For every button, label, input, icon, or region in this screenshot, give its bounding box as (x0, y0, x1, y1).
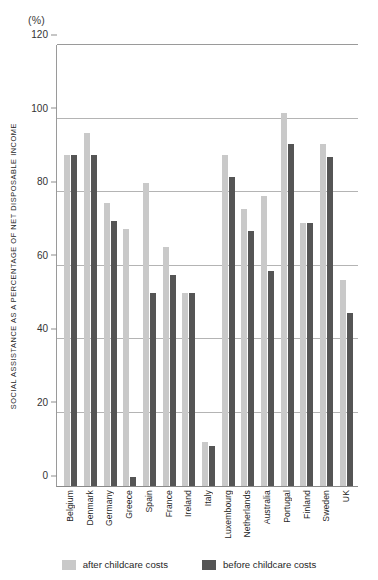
x-axis-label-france: France (159, 490, 179, 552)
bar-group-ireland (179, 45, 199, 486)
x-axis-label-text: Ireland (183, 490, 193, 517)
x-axis-label-text: Luxembourg (223, 490, 233, 539)
x-axis-label-belgium: Belgium (60, 490, 80, 552)
unit-label: (%) (28, 14, 45, 26)
y-tick-label-120: 120 (31, 29, 57, 40)
x-axis-label-denmark: Denmark (80, 490, 100, 552)
bar-group-germany (100, 45, 120, 486)
bar-group-finland (297, 45, 317, 486)
x-axis-label-germany: Germany (99, 490, 119, 552)
x-axis-label-text: Sweden (321, 490, 331, 522)
x-axis-label-australia: Australia (257, 490, 277, 552)
bar-group-luxembourg (218, 45, 238, 486)
bar-greece-after (123, 229, 129, 486)
bar-france-after (163, 247, 169, 486)
x-axis-label-greece: Greece (119, 490, 139, 552)
bar-netherlands-before (248, 231, 254, 486)
bar-italy-after (202, 442, 208, 486)
legend-item-before: before childcare costs (202, 559, 316, 570)
x-axis-label-text: Greece (124, 490, 134, 519)
bar-group-france (159, 45, 179, 486)
bar-luxembourg-before (229, 177, 235, 486)
chart-plot-area: 020406080100120 (56, 45, 358, 487)
y-tick-label-0: 0 (42, 470, 57, 481)
x-axis-label-netherlands: Netherlands (238, 490, 258, 552)
y-tick-label-20: 20 (37, 396, 57, 407)
legend-swatch-after-icon (62, 560, 76, 570)
bar-ireland-before (189, 293, 195, 486)
x-axis-label-luxembourg: Luxembourg (218, 490, 238, 552)
x-axis-label-italy: Italy (198, 490, 218, 552)
bar-denmark-before (91, 155, 97, 486)
bar-spain-before (150, 293, 156, 486)
bar-group-greece (120, 45, 140, 486)
y-tick-label-60: 60 (37, 249, 57, 260)
bar-groups (57, 45, 358, 486)
bar-italy-before (209, 446, 215, 486)
bar-greece-before (130, 477, 136, 486)
bar-belgium-before (71, 155, 77, 486)
bar-spain-after (143, 183, 149, 486)
bar-belgium-after (64, 155, 70, 486)
bar-group-denmark (81, 45, 101, 486)
x-axis-label-text: Italy (203, 490, 213, 506)
bar-australia-before (268, 271, 274, 486)
x-axis-label-sweden: Sweden (317, 490, 337, 552)
legend-label-after: after childcare costs (83, 559, 168, 570)
x-axis-labels: BelgiumDenmarkGermanyGreeceSpainFranceIr… (56, 490, 358, 552)
bar-group-sweden (317, 45, 337, 486)
bar-uk-after (340, 280, 346, 486)
x-axis-label-text: Germany (104, 490, 114, 526)
x-axis-label-finland: Finland (297, 490, 317, 552)
bar-sweden-before (327, 157, 333, 486)
y-tick-label-100: 100 (31, 102, 57, 113)
x-axis-label-text: UK (341, 490, 351, 502)
bar-group-uk (336, 45, 356, 486)
bar-sweden-after (320, 144, 326, 486)
x-axis-label-text: France (164, 490, 174, 517)
legend-item-after: after childcare costs (62, 559, 168, 570)
bar-france-before (170, 275, 176, 486)
x-axis-label-ireland: Ireland (178, 490, 198, 552)
x-axis-label-text: Belgium (65, 490, 75, 522)
bar-finland-before (307, 223, 313, 486)
bar-group-belgium (61, 45, 81, 486)
x-axis-label-spain: Spain (139, 490, 159, 552)
bar-germany-after (104, 203, 110, 486)
legend-label-before: before childcare costs (223, 559, 316, 570)
bar-group-australia (258, 45, 278, 486)
bar-ireland-after (182, 293, 188, 486)
x-axis-label-text: Portugal (282, 490, 292, 523)
bar-finland-after (300, 223, 306, 486)
bar-luxembourg-after (222, 155, 228, 486)
x-axis-label-text: Netherlands (242, 490, 252, 537)
chart-legend: after childcare costs before childcare c… (0, 559, 378, 570)
bar-portugal-after (281, 113, 287, 486)
bar-australia-after (261, 196, 267, 486)
bar-uk-before (347, 313, 353, 486)
y-tick-label-40: 40 (37, 323, 57, 334)
bar-denmark-after (84, 133, 90, 486)
bar-netherlands-after (241, 209, 247, 486)
x-axis-label-portugal: Portugal (277, 490, 297, 552)
legend-swatch-before-icon (202, 560, 216, 570)
bar-group-portugal (277, 45, 297, 486)
bar-group-italy (199, 45, 219, 486)
y-axis-title-text: SOCIAL ASSISTANCE AS A PERCENTAGE OF NET… (9, 123, 18, 409)
x-axis-label-text: Denmark (85, 490, 95, 526)
bar-germany-before (111, 221, 117, 486)
x-axis-label-uk: UK (336, 490, 356, 552)
x-axis-label-text: Spain (144, 490, 154, 512)
x-axis-label-text: Finland (302, 490, 312, 519)
y-tick-label-80: 80 (37, 176, 57, 187)
bar-group-netherlands (238, 45, 258, 486)
y-axis-title: SOCIAL ASSISTANCE AS A PERCENTAGE OF NET… (6, 45, 20, 487)
x-axis-label-text: Australia (262, 490, 272, 524)
bar-portugal-before (288, 144, 294, 486)
bar-group-spain (140, 45, 160, 486)
